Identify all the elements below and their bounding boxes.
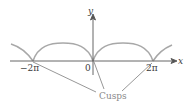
cusp-leaders — [33, 62, 152, 92]
y-axis-label: y — [87, 6, 94, 16]
arch-2 — [93, 43, 153, 61]
arch-left-partial — [11, 44, 33, 61]
x-axis-label: x — [178, 56, 183, 66]
arch-1 — [33, 43, 93, 61]
tick-neg-two-pi: −2π — [20, 63, 39, 73]
curve — [11, 43, 172, 61]
cusps-annotation: Cusps — [99, 91, 127, 101]
tick-zero: 0 — [85, 63, 91, 73]
diagram-canvas: y x −2π 0 2π Cusps — [0, 0, 188, 108]
tick-two-pi: 2π — [146, 63, 158, 73]
cycloid-diagram: y x −2π 0 2π Cusps — [0, 0, 188, 108]
arch-right-partial — [153, 45, 172, 61]
leader-zero — [94, 62, 104, 89]
